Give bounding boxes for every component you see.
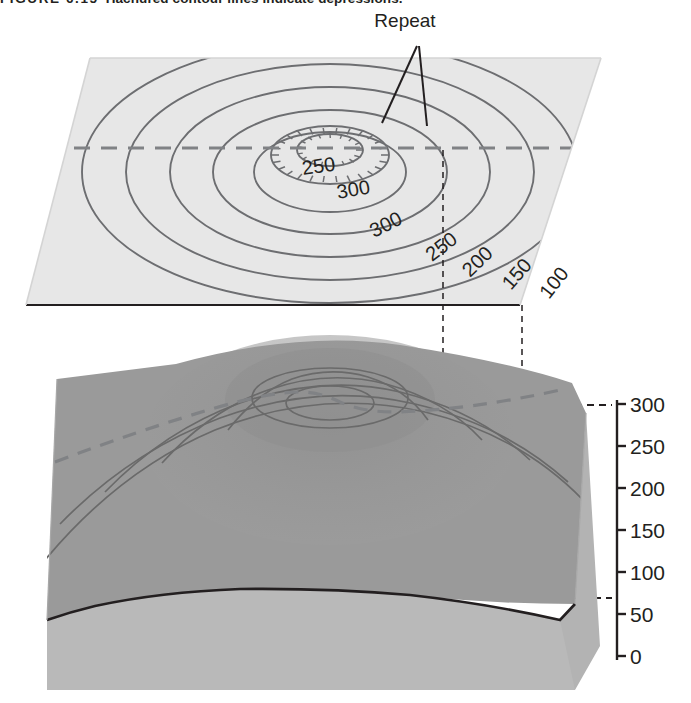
axis-tick-label-150: 150 (630, 519, 665, 542)
axis-ticks (617, 404, 626, 656)
elevation-axis: 300 250 200 150 100 50 0 (617, 393, 665, 668)
figure-graphic: 250 300 300 250 200 150 100 Repeat (0, 0, 691, 703)
contour-label-250-inner: 250 (300, 153, 336, 179)
axis-tick-label-250: 250 (630, 435, 665, 458)
block-front-face (47, 589, 575, 690)
figure-container: FIGURE 6.15Hachured contour lines indica… (0, 0, 691, 703)
axis-tick-label-300: 300 (630, 393, 665, 416)
block-diagram-panel (45, 335, 600, 690)
axis-tick-label-0: 0 (630, 645, 642, 668)
repeat-label: Repeat (374, 10, 436, 31)
axis-tick-label-50: 50 (630, 603, 653, 626)
contour-label-100: 100 (535, 263, 573, 303)
axis-tick-label-200: 200 (630, 477, 665, 500)
axis-tick-label-100: 100 (630, 561, 665, 584)
